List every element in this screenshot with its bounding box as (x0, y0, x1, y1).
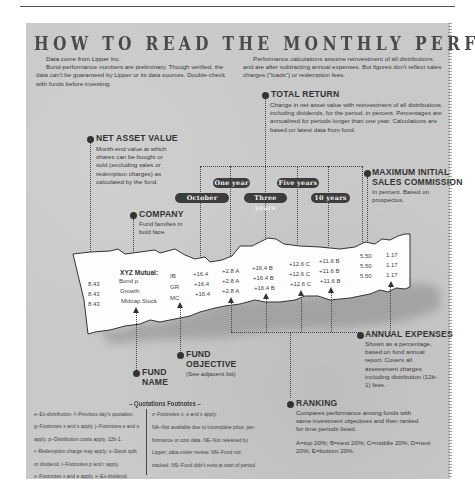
max-commission-value: 5.50 (360, 262, 372, 272)
footnotes-right: z–Footnotes x, e and s apply. NA–Not ava… (152, 408, 264, 472)
ranking-heading: RANKING (296, 399, 338, 409)
intro-left-lead: Data come from Lipper Inc. (36, 55, 236, 63)
return-ten-years: +11.6 B (319, 257, 339, 267)
max-commission-value: 5.50 (360, 272, 372, 282)
annual-expenses-heading: ANNUAL EXPENSES (365, 330, 453, 340)
ten-years-rank-leader (331, 292, 332, 332)
period-bracket-top (200, 166, 362, 167)
fund-objective-bullet (177, 352, 184, 359)
period-label-five-years: Five years (277, 178, 319, 188)
total-return-bullet (262, 92, 269, 99)
total-return-leader (265, 99, 266, 166)
footnotes-divider (146, 409, 147, 475)
fund-objective-heading-line2: OBJECTIVE (186, 360, 237, 370)
ranking-leader (290, 332, 291, 398)
october-bracket-left (200, 166, 201, 262)
fund-name: Midcap Stock (121, 297, 157, 307)
nav-value: 8.43 (88, 300, 100, 310)
ranking-bracket (231, 332, 361, 333)
footnote-line: NA–Not available due to incomplete price… (152, 421, 264, 434)
ranking-body: Compares performance among funds with sa… (296, 409, 426, 434)
footnote-line: e–Ex-distribution. f–Previous day's quot… (34, 408, 146, 420)
intro-right-body: Performance calculations assume reinvest… (243, 55, 443, 80)
one-year-rank-leader (231, 302, 232, 332)
return-ten-years: +11.6 B (320, 277, 340, 287)
footnote-line: Lipper; data under review. NN–Fund not (152, 446, 264, 459)
nav-heading: NET ASSET VALUE (96, 134, 178, 144)
nav-value: 8.43 (88, 290, 100, 300)
fund-objective: GR (170, 283, 179, 293)
nav-body: Month-end value at which shares can be b… (96, 145, 172, 186)
return-one-year: +2.8 A (222, 287, 239, 297)
ranking-bullet (287, 401, 294, 408)
nav-arrow (87, 272, 93, 278)
fund-objective-leader (180, 307, 181, 353)
return-five-years: +12.6 C (289, 260, 310, 270)
company-leader (133, 219, 134, 259)
fund-name-leader (136, 312, 137, 370)
total-return-heading: TOTAL RETURN (271, 90, 339, 100)
company-heading: COMPANY (139, 210, 184, 220)
footnote-line: z–Footnotes x, e and s apply. (152, 408, 264, 421)
ranking-scale: A=top 20%; B=next 20%; C=middle 20%; D=n… (296, 439, 442, 455)
nav-value: 8.43 (88, 280, 100, 290)
period-label-october: October (175, 193, 229, 203)
fund-name: Bond p (119, 277, 138, 287)
footnote-line: v–Footnotes x and e apply. x–Ex-dividend… (34, 470, 146, 482)
top-rule (20, 6, 455, 7)
max-commission-heading-line2: SALES COMMISSION (372, 178, 463, 188)
expenses-value: 1.17 (386, 261, 398, 271)
annual-expenses-body: Shown as a percentage, based on fund ann… (365, 340, 441, 389)
return-five-years: +12.6 C (289, 270, 310, 280)
three-years-rank-leader (266, 298, 267, 332)
footnotes-left: e–Ex-distribution. f–Previous day's quot… (34, 408, 146, 482)
nav-leader (90, 143, 91, 276)
max-commission-body: In percent. Based on prospectus. (372, 188, 432, 204)
fund-objective-body: (See adjacent list) (186, 370, 256, 378)
max-commission-value: 5.50 (360, 252, 372, 262)
return-ten-years: +11.6 B (319, 267, 339, 277)
max-commission-bullet (364, 170, 371, 177)
intro-left-body: Bond-performance numbers are preliminary… (36, 63, 236, 88)
footnote-line: formance or cost data. NE–Not released b… (152, 434, 264, 447)
company-body: Fund families in bold face. (139, 220, 183, 236)
panel-torn-edge (448, 23, 452, 479)
fund-objective: IB (170, 272, 176, 282)
fund-objective-heading: FUND OBJECTIVE (186, 350, 237, 369)
intro-left: Data come from Lipper Inc. Bond-performa… (36, 55, 236, 88)
expenses-value: 1.17 (386, 271, 398, 281)
nav-bullet (87, 136, 94, 143)
period-label-three-years: Three years (244, 193, 287, 203)
fund-name-heading: FUND NAME (142, 368, 168, 387)
return-three-years: +16.4 B (252, 264, 273, 274)
footnote-line: or dividend. t–Footnotes p and r apply. (34, 458, 146, 470)
footnote-line: r–Redemption charge may apply. s–Stock s… (34, 445, 146, 457)
company-bullet (130, 212, 137, 219)
return-one-year: +2.8 A (222, 267, 239, 277)
page-title: HOW TO READ THE MONTHLY PERFORMANCE TABL… (34, 33, 454, 55)
period-label-ten-years: 10 years (311, 193, 350, 203)
annual-expenses-bullet (357, 332, 364, 339)
period-label-one-year: One year (213, 178, 250, 188)
footnotes-title: – Quotations Footnotes – (63, 400, 267, 407)
total-return-body: Change in net asset value with reinvestm… (270, 101, 446, 134)
return-three-years: +16.4 B (253, 274, 274, 284)
return-five-years: +12.6 C (290, 280, 311, 290)
expenses-arrow (388, 281, 394, 287)
max-commission-heading: MAXIMUM INITIAL SALES COMMISSION (372, 168, 463, 187)
five-years-rank-leader (301, 295, 302, 332)
return-october: +16.4 (193, 270, 208, 280)
return-october: +16.4 (194, 280, 209, 290)
return-october: +16.4 (195, 290, 210, 300)
footnote-line: tracked. NS–Fund didn't exist at start o… (152, 459, 264, 472)
expenses-value: 1.17 (386, 251, 398, 261)
fund-name-heading-line2: NAME (142, 378, 168, 388)
max-commission-leader (367, 177, 368, 247)
fund-name-bullet (133, 370, 140, 377)
footnote-line: g–Footnotes x and s apply. j–Footnotes e… (34, 420, 146, 432)
period-bracket-right (362, 166, 363, 246)
fund-name: Growth (120, 287, 139, 297)
return-one-year: +2.8 A (222, 277, 239, 287)
ten-years-leader (328, 166, 329, 246)
footnote-line: apply. p–Distribution costs apply, 12b-1… (34, 433, 146, 445)
